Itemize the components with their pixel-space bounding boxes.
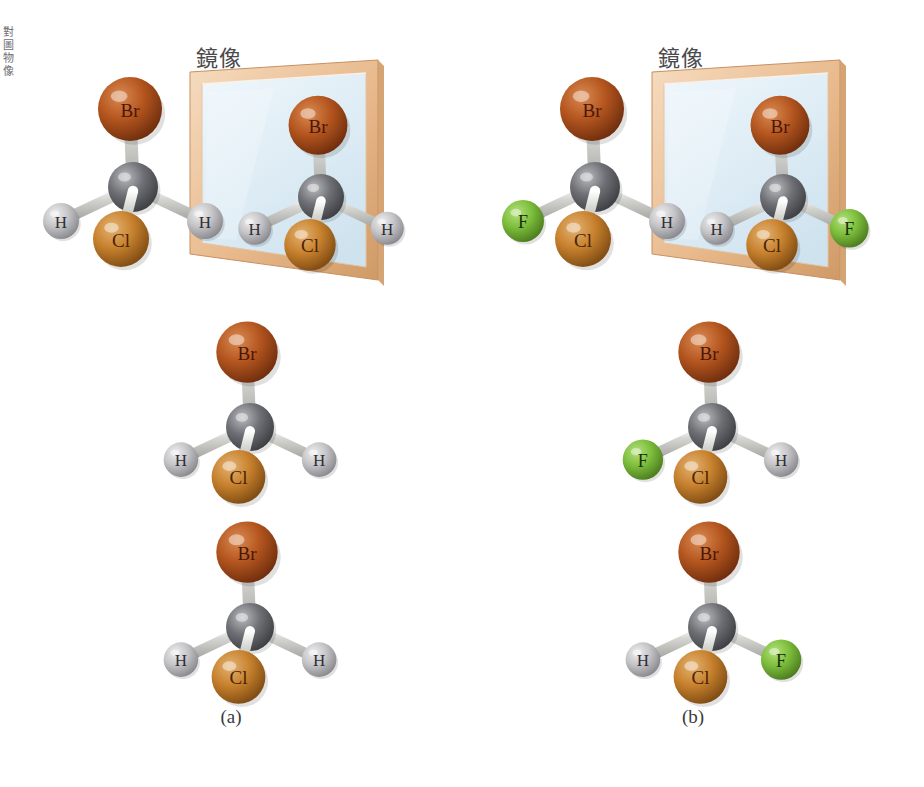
molecule-b-bottom: BrHFCl: [587, 515, 837, 725]
caption-a: (a): [0, 706, 462, 728]
molecule-a-reflection: BrHHCl: [196, 85, 446, 295]
molecule-b-reflection: BrHFCl: [658, 85, 908, 295]
panel-a: 鏡像 BrHHCl BrHHCl BrHHCl BrHHCl (a): [0, 0, 462, 787]
caption-b: (b): [462, 706, 924, 728]
molecule-a-middle: BrHHCl: [125, 315, 375, 525]
figure-canvas: 對圖物像 鏡像 BrHHCl BrHHCl BrHHCl BrHHCl (a) …: [0, 0, 924, 787]
molecule-a-bottom: BrHHCl: [125, 515, 375, 725]
panel-b: 鏡像 BrFHCl BrHFCl BrFHCl BrHFCl (b): [462, 0, 924, 787]
molecule-b-middle: BrFHCl: [587, 315, 837, 525]
